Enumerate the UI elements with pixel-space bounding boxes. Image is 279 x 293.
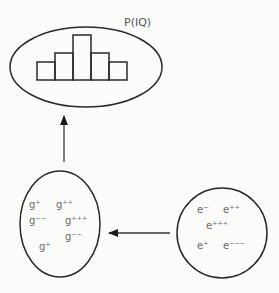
histogram-bar [73, 35, 91, 80]
node-label: e⁻⁻⁻ [223, 240, 245, 251]
node-label: g⁺⁺⁺ [65, 215, 87, 226]
iq-distribution-node: P(IQ) [10, 16, 162, 107]
histogram-bar [109, 62, 127, 80]
node-label: e⁺ [197, 240, 208, 251]
node-title: P(IQ) [124, 16, 151, 29]
e-labels: e⁻e⁺⁺e⁺⁺⁺e⁺e⁻⁻⁻ [197, 204, 245, 251]
e-node: e⁻e⁺⁺e⁺⁺⁺e⁺e⁻⁻⁻ [177, 188, 267, 278]
node-label: g⁺ [39, 241, 51, 252]
g-labels: g⁺g⁺⁺g⁻⁻g⁺⁺⁺g⁻⁻g⁺ [29, 199, 87, 252]
histogram-bar [91, 53, 109, 80]
histogram [37, 35, 127, 80]
node-label: e⁺⁺⁺ [206, 220, 228, 231]
histogram-bar [37, 62, 55, 80]
node-label: g⁺ [29, 199, 41, 210]
top-ellipse [10, 27, 162, 107]
node-label: g⁻⁻ [29, 215, 46, 226]
node-label: g⁻⁻ [65, 231, 82, 242]
g-node: g⁺g⁺⁺g⁻⁻g⁺⁺⁺g⁻⁻g⁺ [20, 171, 100, 277]
right-circle [177, 188, 267, 278]
node-label: g⁺⁺ [56, 199, 73, 210]
histogram-bar [55, 53, 73, 80]
node-label: e⁺⁺ [223, 204, 240, 215]
diagram-canvas: P(IQ) g⁺g⁺⁺g⁻⁻g⁺⁺⁺g⁻⁻g⁺ e⁻e⁺⁺e⁺⁺⁺e⁺e⁻⁻⁻ [0, 0, 279, 293]
node-label: e⁻ [197, 204, 208, 215]
